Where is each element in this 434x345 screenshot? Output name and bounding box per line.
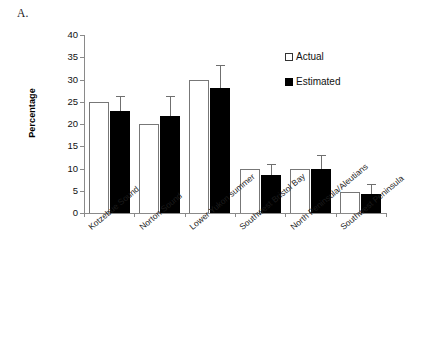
x-tick xyxy=(285,213,286,217)
error-bar-4 xyxy=(321,155,322,170)
error-bar-3 xyxy=(271,164,272,175)
y-tick-label: 25 xyxy=(67,97,78,107)
x-tick xyxy=(134,213,135,217)
panel-letter: A. xyxy=(17,7,29,19)
y-tick xyxy=(80,169,84,170)
chart-legend: ActualEstimated xyxy=(285,52,340,102)
error-bar-1 xyxy=(170,96,171,117)
y-tick xyxy=(80,146,84,147)
legend-item-actual: Actual xyxy=(285,52,340,62)
bar-actual-0 xyxy=(89,102,109,213)
y-tick-label: 20 xyxy=(67,119,78,129)
y-tick-label: 5 xyxy=(73,186,78,196)
legend-swatch-icon xyxy=(285,53,293,61)
error-bar-cap-3 xyxy=(267,164,276,165)
y-tick-label: 0 xyxy=(73,208,78,218)
y-axis-title: Percentage xyxy=(27,68,37,158)
legend-label: Actual xyxy=(296,52,324,62)
y-tick xyxy=(80,191,84,192)
error-bar-0 xyxy=(120,96,121,110)
legend-label: Estimated xyxy=(296,77,340,87)
y-tick-label: 35 xyxy=(67,53,78,63)
legend-swatch-icon xyxy=(285,78,293,86)
y-tick-label: 40 xyxy=(67,30,78,40)
error-bar-cap-2 xyxy=(216,65,225,66)
x-tick xyxy=(235,213,236,217)
y-tick-label: 30 xyxy=(67,75,78,85)
y-tick xyxy=(80,102,84,103)
error-bar-cap-4 xyxy=(317,155,326,156)
bar-actual-1 xyxy=(139,124,159,213)
y-tick-label: 15 xyxy=(67,142,78,152)
error-bar-2 xyxy=(220,65,221,87)
error-bar-cap-1 xyxy=(166,96,175,97)
x-tick xyxy=(336,213,337,217)
bar-actual-2 xyxy=(189,80,209,213)
y-tick xyxy=(80,124,84,125)
error-bar-cap-0 xyxy=(116,96,125,97)
x-tick xyxy=(84,213,85,217)
legend-item-estimated: Estimated xyxy=(285,77,340,87)
y-tick xyxy=(80,35,84,36)
error-bar-cap-5 xyxy=(367,184,376,185)
x-tick xyxy=(185,213,186,217)
y-tick xyxy=(80,80,84,81)
figure-panel-a: A. Percentage 0510152025303540 ActualEst… xyxy=(0,0,434,345)
y-tick xyxy=(80,57,84,58)
x-tick xyxy=(386,213,387,217)
y-tick-label: 10 xyxy=(67,164,78,174)
error-bar-5 xyxy=(371,184,372,194)
